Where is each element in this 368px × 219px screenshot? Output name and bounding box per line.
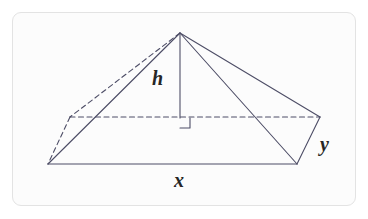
edge-apex-to-back-left xyxy=(70,33,180,117)
right-angle-marker-icon xyxy=(180,118,190,128)
base-width-label: y xyxy=(320,134,329,154)
edge-apex-to-front-right xyxy=(180,33,297,164)
pyramid-diagram xyxy=(0,0,368,219)
edge-apex-to-back-right xyxy=(180,33,320,117)
height-label: h xyxy=(152,68,163,88)
edge-apex-to-front-left xyxy=(48,33,180,164)
figure-screenshot: h x y xyxy=(0,0,368,219)
base-length-label: x xyxy=(174,170,184,190)
edge-back-left-to-front-left xyxy=(48,117,70,164)
edge-front-right-to-back-right xyxy=(297,117,320,164)
